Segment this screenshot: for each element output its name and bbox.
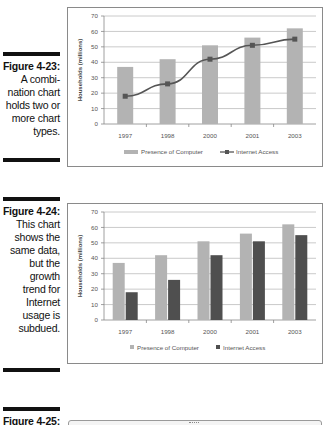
y-tick-label: 40 [91,254,98,261]
y-tick-label: 60 [91,28,98,35]
clustered-bar-chart: Households (millions)0102030405060701997… [67,203,323,364]
caption-rule-bottom [3,158,60,162]
bar-internet-access [253,241,265,320]
caption-line: shows the [15,231,60,243]
y-tick-label: 60 [91,224,98,231]
y-tick-label: 70 [91,208,98,215]
line-marker [208,57,213,62]
bar-internet-access [126,292,138,320]
bar-presence-of-computer [198,241,210,320]
line-marker [292,37,297,42]
x-tick-label: 2003 [288,132,302,139]
bar-presence-of-computer [240,234,252,320]
bar-presence-of-computer [282,224,294,320]
legend-label: Presence of Computer [141,148,203,155]
y-tick-label: 30 [91,270,98,277]
y-tick-label: 0 [95,316,99,323]
y-tick-label: 0 [95,120,99,127]
caption-line: usage is [22,309,60,321]
line-marker [123,94,128,99]
y-axis-label: Households (millions) [77,235,83,298]
figure-number: Figure 4-23: [0,60,60,73]
y-tick-label: 50 [91,43,98,50]
figure-number: Figure 4-24: [0,205,60,218]
y-tick-label: 10 [91,105,98,112]
x-tick-label: 2003 [288,328,302,335]
x-tick-label: 2000 [203,132,217,139]
y-tick-label: 30 [91,74,98,81]
y-tick-label: 20 [91,89,98,96]
legend-label: Internet Access [236,148,278,155]
x-tick-label: 2001 [246,328,260,335]
x-tick-label: 1998 [161,328,175,335]
y-tick-label: 20 [91,285,98,292]
caption-line: Internet [26,296,60,308]
caption-line: This chart [16,218,60,230]
caption-line: same data, [10,244,60,256]
legend-label: Internet Access [223,344,265,351]
combo-chart: Households (millions)0102030405060701997… [67,7,323,167]
caption-rule-top [3,197,60,201]
caption-rule-top [3,407,60,411]
x-tick-label: 1998 [161,132,175,139]
bar-internet-access [211,255,223,320]
x-tick-label: 1997 [118,132,132,139]
bar-presence-of-computer [244,38,260,124]
bar-internet-access [168,280,180,320]
caption-line: more chart [12,112,60,124]
caption-line: nation chart [8,86,60,98]
figure-number: Figure 4-25: [0,415,60,425]
legend-swatch-presence [130,345,134,349]
caption-rule-bottom [3,368,60,372]
caption-line: subdued. [18,322,60,334]
chart-plot-area: Households (millions)0102030405060701997… [68,8,322,166]
figure-caption: Figure 4-24: This chart shows the same d… [0,205,60,335]
chart-plot-area: Households (millions)0102030405060701997… [68,204,322,363]
y-tick-label: 50 [91,239,98,246]
bar-presence-of-computer [155,255,167,320]
caption-line: types. [33,125,60,137]
caption-rule-top [3,52,60,56]
bar-presence-of-computer [160,59,176,124]
line-marker [250,43,255,48]
legend-swatch-presence [124,150,138,154]
figure-caption: Figure 4-25: [0,415,60,425]
x-tick-label: 2000 [203,328,217,335]
caption-line: but the [29,257,60,269]
y-axis-label: Households (millions) [77,39,83,102]
caption-line: trend for [23,283,60,295]
y-tick-label: 40 [91,58,98,65]
x-tick-label: 1997 [118,328,132,335]
x-tick-label: 2001 [246,132,260,139]
y-tick-label: 10 [91,301,98,308]
dialog-window-frame [68,420,322,425]
bar-presence-of-computer [287,28,303,124]
caption-line: A combi- [21,73,60,85]
legend-swatch-internet [216,345,220,349]
caption-line: growth [30,270,60,282]
figure-caption: Figure 4-23: A combi- nation chart holds… [0,60,60,138]
line-marker [165,81,170,86]
bar-internet-access [295,235,307,320]
y-tick-label: 70 [91,12,98,19]
caption-line: holds two or [6,99,60,111]
legend-label: Presence of Computer [137,344,199,351]
bar-presence-of-computer [113,263,125,320]
